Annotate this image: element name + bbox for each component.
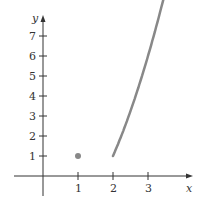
x-tick-label: 3 <box>145 182 152 195</box>
y-tick-label: 5 <box>29 70 36 83</box>
x-tick-label: 1 <box>75 182 82 195</box>
plot: x y 1 2 3 1 2 3 4 5 6 7 <box>0 0 202 201</box>
y-tick-label: 6 <box>29 50 36 63</box>
y-tick-label: 4 <box>29 90 36 103</box>
x-tick-label: 2 <box>110 182 117 195</box>
x-ticks: 1 2 3 <box>75 172 152 195</box>
y-tick-label: 3 <box>29 110 36 123</box>
y-axis-arrow-icon <box>41 15 46 22</box>
x-axis-label: x <box>186 182 193 195</box>
curve-line <box>113 0 164 156</box>
y-tick-label: 2 <box>29 130 36 143</box>
y-axis-label: y <box>31 12 39 25</box>
x-axis-arrow-icon <box>186 174 193 179</box>
y-tick-label: 1 <box>29 150 36 163</box>
y-ticks: 1 2 3 4 5 6 7 <box>29 30 47 163</box>
y-tick-label: 7 <box>29 30 36 43</box>
data-point <box>75 153 81 159</box>
